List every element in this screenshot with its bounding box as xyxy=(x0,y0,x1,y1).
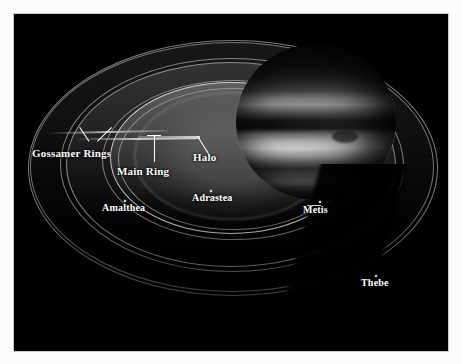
label-layer: Gossamer Rings Main Ring Halo Amalthea A… xyxy=(14,14,448,351)
label-gossamer-rings: Gossamer Rings xyxy=(32,147,111,159)
label-halo: Halo xyxy=(193,151,216,163)
figure-jupiter-ring-system: Gossamer Rings Main Ring Halo Amalthea A… xyxy=(0,0,462,364)
label-main-ring: Main Ring xyxy=(117,165,169,177)
label-thebe: Thebe xyxy=(361,277,389,288)
image-plate: Gossamer Rings Main Ring Halo Amalthea A… xyxy=(14,14,448,351)
label-adrastea: Adrastea xyxy=(192,192,232,203)
label-amalthea: Amalthea xyxy=(102,202,145,213)
label-metis: Metis xyxy=(303,204,328,215)
